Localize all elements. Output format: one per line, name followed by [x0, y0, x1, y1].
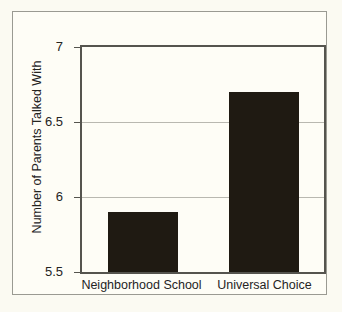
- x-axis-tick-label: Neighborhood School: [80, 278, 203, 300]
- y-axis-tick-label: 7: [56, 40, 63, 53]
- bar: [229, 92, 299, 272]
- y-axis-tick-label: 5.5: [45, 265, 63, 278]
- y-axis-tick-labels: 5.566.57: [13, 45, 75, 274]
- figure-border: Number of Parents Talked With 5.566.57 N…: [12, 11, 327, 295]
- x-axis-tick-label: Universal Choice: [203, 278, 326, 300]
- y-axis-tick-label: 6.5: [45, 115, 63, 128]
- chart-figure: Number of Parents Talked With 5.566.57 N…: [0, 0, 342, 312]
- plot-area: [80, 45, 326, 274]
- bar: [108, 212, 178, 272]
- y-axis-tick-label: 6: [56, 190, 63, 203]
- x-axis-tick-labels: Neighborhood SchoolUniversal Choice: [80, 278, 326, 300]
